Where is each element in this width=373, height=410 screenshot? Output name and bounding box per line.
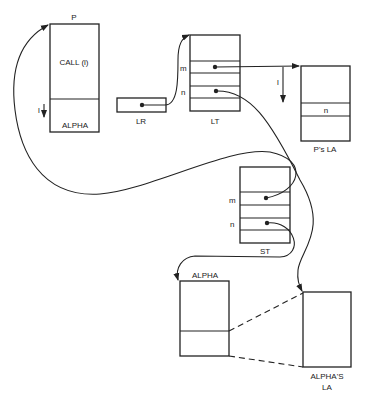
edge-dashed-top xyxy=(229,293,303,331)
edge-lt-to-alphasla xyxy=(216,91,313,291)
block-st-caption: ST xyxy=(260,247,270,256)
block-lr: LR xyxy=(117,98,166,126)
block-st-row-n: n xyxy=(230,220,234,229)
block-p-pointer-label: l xyxy=(38,106,40,115)
block-alphas-la-caption-1: ALPHA'S xyxy=(310,372,343,381)
block-p-title: P xyxy=(71,13,76,22)
block-alphas-la-caption-2: LA xyxy=(322,383,332,392)
block-lr-caption: LR xyxy=(136,117,146,126)
block-p: P CALL (l) ALPHA l xyxy=(38,13,99,132)
block-lt-caption: LT xyxy=(211,117,220,126)
block-p-frame xyxy=(50,24,99,132)
block-ps-la-row-n: n xyxy=(324,106,328,115)
block-alpha-title: ALPHA xyxy=(192,271,219,280)
block-ps-la-caption: P's LA xyxy=(314,145,338,154)
block-lt-row-m: m xyxy=(180,64,187,73)
block-alpha-frame xyxy=(180,281,229,356)
block-st-row-m: m xyxy=(229,196,236,205)
block-alphas-la-frame xyxy=(303,292,351,367)
block-lt-row-n: n xyxy=(181,88,185,97)
block-lt: m n LT xyxy=(180,35,240,126)
edge-dashed-bottom xyxy=(229,356,303,367)
block-st: m n ST xyxy=(229,167,290,256)
block-alpha: ALPHA xyxy=(180,271,229,356)
edge-lt-to-psla xyxy=(215,66,299,67)
block-ps-la-pointer-label: l xyxy=(277,78,279,87)
block-alphas-la: ALPHA'S LA xyxy=(303,292,351,392)
block-p-lower-label: ALPHA xyxy=(62,121,89,130)
diagram-canvas: P CALL (l) ALPHA l LR m n LT n P's LA l xyxy=(0,0,373,410)
block-p-upper-label: CALL (l) xyxy=(59,58,88,67)
block-ps-la: n P's LA l xyxy=(277,66,350,154)
